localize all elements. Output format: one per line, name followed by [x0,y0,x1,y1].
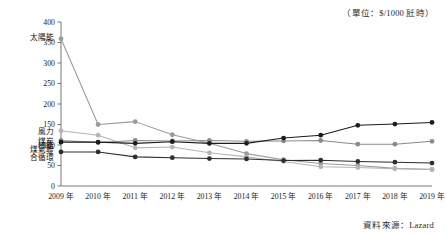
series-point-3 [393,122,398,127]
x-tick-label: 2013 年 [197,191,223,201]
series-point-2 [355,142,360,147]
series-point-4 [244,157,249,162]
series-point-1 [430,167,435,172]
series-label-0: 太陽能 [30,32,54,42]
series-point-3 [244,141,249,146]
y-tick-label: 400 [43,18,55,27]
series-point-1 [393,166,398,171]
series-point-4 [318,158,323,163]
x-tick-label: 2015 年 [271,191,297,201]
plot-area: 0501001502002503003504002009 年2010 年2011… [0,0,446,236]
series-point-3 [59,140,64,145]
series-point-2 [430,139,435,144]
x-tick-label: 2018 年 [382,191,408,201]
series-point-4 [170,155,175,160]
x-tick-label: 2012 年 [160,191,186,201]
series-point-4 [96,150,101,155]
y-tick-label: 300 [43,59,55,68]
series-point-3 [170,139,175,144]
series-point-1 [355,165,360,170]
x-tick-label: 2019 年 [419,191,445,201]
x-tick-label: 2009 年 [48,191,74,201]
series-point-1 [96,133,101,138]
series-point-1 [59,128,64,133]
line-chart: （單位：$/1000 瓩時） 資料來源：Lazard 0501001502002… [0,0,446,236]
series-point-4 [430,161,435,166]
series-point-0 [59,36,64,41]
y-tick-label: 50 [47,161,55,170]
series-label-1: 風力 [38,126,54,136]
series-point-4 [207,156,212,161]
series-point-3 [430,120,435,125]
series-point-2 [393,142,398,147]
series-line-0 [61,39,432,170]
series-label-4: 煤氣聯 [30,144,54,154]
series-point-1 [170,145,175,150]
x-tick-label: 2017 年 [345,191,371,201]
series-label-4: 合循環 [30,152,54,162]
series-point-4 [355,159,360,164]
series-point-3 [96,140,101,145]
series-point-3 [281,136,286,141]
series-point-0 [170,132,175,137]
series-point-4 [59,150,64,155]
series-line-1 [61,131,432,170]
series-point-1 [318,164,323,169]
y-tick-label: 250 [43,79,55,88]
series-point-0 [133,119,138,124]
y-tick-label: 200 [43,100,55,109]
x-tick-label: 2010 年 [85,191,111,201]
x-tick-label: 2016 年 [308,191,334,201]
series-point-3 [355,123,360,128]
series-point-3 [133,141,138,146]
series-point-0 [96,122,101,127]
series-point-4 [133,154,138,159]
series-point-1 [207,150,212,155]
x-tick-label: 2011 年 [123,191,148,201]
x-tick-label: 2014 年 [234,191,260,201]
series-point-4 [281,158,286,163]
series-point-4 [393,160,398,165]
series-point-1 [133,145,138,150]
series-point-3 [207,141,212,146]
series-point-2 [318,138,323,143]
y-tick-label: 0 [51,182,55,191]
series-point-3 [318,133,323,138]
